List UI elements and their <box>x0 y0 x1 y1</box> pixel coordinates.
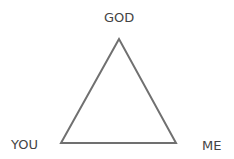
triangle-shape <box>61 39 176 143</box>
vertex-label-bottom-left: YOU <box>11 138 38 151</box>
vertex-label-bottom-right: ME <box>202 139 221 152</box>
vertex-label-top: GOD <box>104 11 134 24</box>
